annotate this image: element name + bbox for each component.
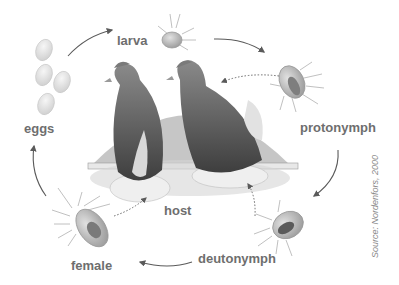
mite-life-cycle-diagram: larva eggs protonymph host deutonymph fe…: [0, 0, 399, 285]
stage-label-eggs: eggs: [24, 121, 54, 136]
stage-label-protonymph: protonymph: [300, 120, 376, 135]
female-illustration: [52, 188, 115, 253]
arrow-female-to-eggs: [33, 146, 46, 196]
arrow-larva-to-protonymph: [214, 39, 264, 52]
protonymph-illustration: [270, 62, 324, 112]
diagram-artwork: [0, 0, 399, 285]
larva-illustration: [158, 14, 196, 50]
stage-label-deutonymph: deutonymph: [198, 251, 276, 266]
eggs-illustration: [33, 37, 74, 117]
arrow-deutonymph-to-female: [140, 262, 192, 266]
deutonymph-illustration: [254, 200, 308, 256]
arrow-protonymph-to-host: [222, 75, 279, 82]
arrow-eggs-to-larva: [68, 30, 112, 56]
stage-label-larva: larva: [117, 33, 147, 48]
hen-left-illustration: [104, 62, 170, 202]
stage-label-host: host: [164, 203, 191, 218]
stage-label-female: female: [71, 258, 112, 273]
arrow-protonymph-to-deutonymph: [314, 150, 338, 196]
source-credit: Source: Nordenfors, 2000: [370, 155, 380, 258]
